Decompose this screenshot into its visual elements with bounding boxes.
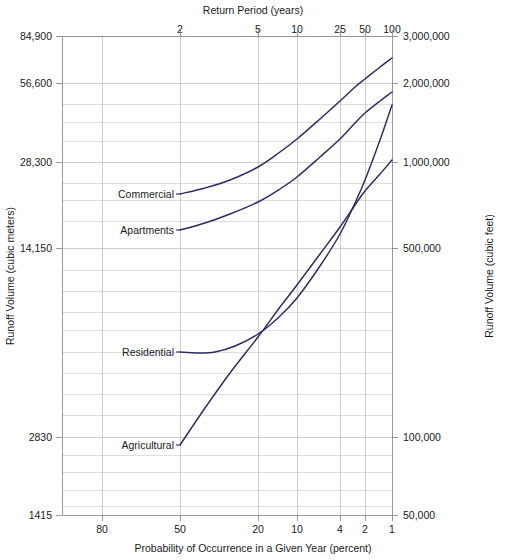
right-tick-labels: 3,000,000 2,000,000 1,000,000 500,000 10…	[403, 30, 450, 521]
left-tick-label: 28,300	[20, 156, 52, 168]
left-tick-label: 56,600	[20, 77, 52, 89]
bottom-tick-label: 4	[337, 523, 343, 535]
chart-svg: Return Period (years) 2 5 10 25 50 100	[0, 0, 507, 560]
series-label-residential: Residential	[122, 346, 174, 358]
left-tick-label: 2830	[29, 431, 53, 443]
series-labels: Commercial Apartments Residential Agricu…	[118, 188, 174, 451]
curve-commercial	[180, 58, 392, 194]
right-tick-label: 100,000	[403, 431, 441, 443]
left-tick-label: 1415	[29, 509, 53, 521]
right-tick-label: 3,000,000	[403, 30, 450, 42]
top-tick-labels: 2 5 10 25 50 100	[177, 23, 401, 35]
series-label-commercial: Commercial	[118, 188, 174, 200]
right-tick-label: 2,000,000	[403, 77, 450, 89]
horizontal-gridlines	[62, 36, 392, 506]
series-label-agricultural: Agricultural	[121, 439, 174, 451]
series-label-apartments: Apartments	[120, 224, 174, 236]
left-tickmarks	[56, 36, 62, 515]
right-tick-label: 50,000	[403, 509, 435, 521]
plot-frame	[62, 36, 392, 515]
curve-apartments	[180, 92, 392, 230]
right-axis-title: Runoff Volume (cubic feet)	[483, 214, 495, 338]
bottom-tick-label: 80	[96, 523, 108, 535]
curve-agricultural	[180, 160, 392, 445]
right-tickmarks	[392, 36, 398, 515]
right-tick-label: 500,000	[403, 242, 441, 254]
bottom-tick-label: 20	[252, 523, 264, 535]
bottom-tick-label: 2	[362, 523, 368, 535]
left-tick-labels: 84,900 56,600 28,300 14,150 2830 1415	[20, 30, 52, 521]
right-tick-label: 1,000,000	[403, 156, 450, 168]
bottom-axis-title: Probability of Occurrence in a Given Yea…	[135, 542, 372, 554]
curve-residential	[180, 105, 392, 353]
bottom-tickmarks	[102, 515, 392, 521]
bottom-tick-label: 50	[174, 523, 186, 535]
series-leaders	[176, 194, 180, 445]
left-axis-title: Runoff Volume (cubic meters)	[4, 207, 16, 345]
left-tick-label: 84,900	[20, 30, 52, 42]
bottom-tick-label: 10	[291, 523, 303, 535]
left-tick-label: 14,150	[20, 242, 52, 254]
bottom-tick-labels: 80 50 20 10 4 2 1	[96, 523, 395, 535]
data-curves	[180, 58, 392, 445]
bottom-tick-label: 1	[389, 523, 395, 535]
runoff-volume-chart: Return Period (years) 2 5 10 25 50 100	[0, 0, 507, 560]
top-axis-title: Return Period (years)	[203, 4, 303, 16]
